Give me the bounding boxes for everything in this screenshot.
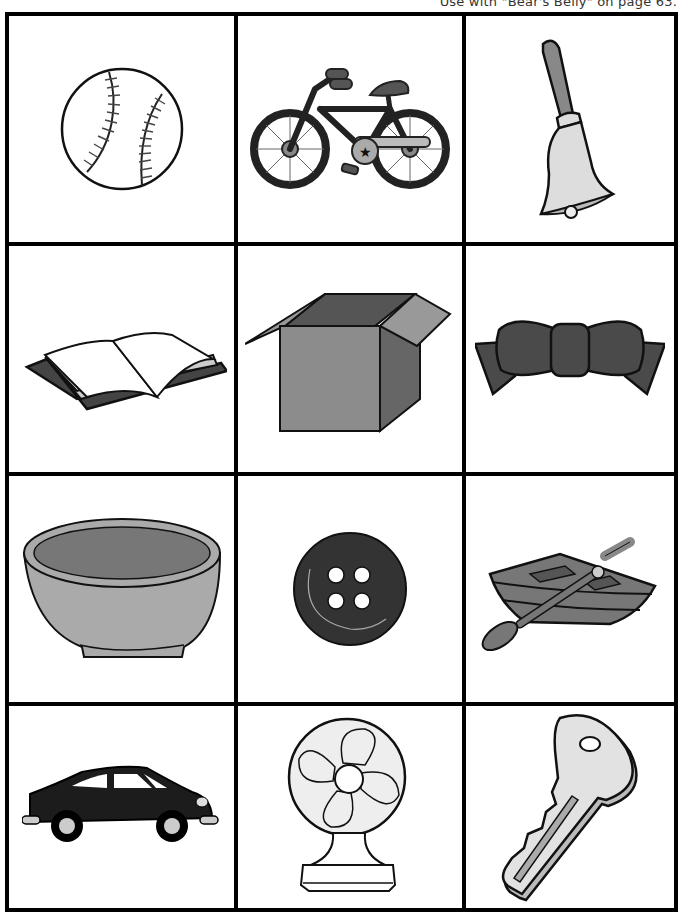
card-button xyxy=(238,476,462,702)
card-box xyxy=(238,246,462,472)
svg-text:★: ★ xyxy=(359,144,372,160)
baseball-icon xyxy=(57,64,187,194)
card-boat xyxy=(466,476,674,702)
card-bicycle: ★ xyxy=(238,16,462,242)
card-book xyxy=(9,246,234,472)
bicycle-icon: ★ xyxy=(250,59,450,199)
page-caption: Use with "Bear's Belly" on page 63. xyxy=(440,0,677,9)
bow-icon xyxy=(475,314,665,404)
book-icon xyxy=(17,299,227,419)
box-icon xyxy=(245,284,455,434)
boat-icon xyxy=(470,524,670,654)
key-icon xyxy=(490,712,650,902)
card-car xyxy=(9,706,234,908)
fan-icon xyxy=(285,715,415,900)
card-fan xyxy=(238,706,462,908)
car-icon xyxy=(22,762,222,852)
card-baseball xyxy=(9,16,234,242)
bowl-icon xyxy=(22,517,222,662)
bell-icon xyxy=(515,34,625,224)
card-bell xyxy=(466,16,674,242)
card-key xyxy=(466,706,674,908)
button-icon xyxy=(290,529,410,649)
card-bowl xyxy=(9,476,234,702)
picture-card-grid: ★ xyxy=(5,12,678,912)
card-bow xyxy=(466,246,674,472)
